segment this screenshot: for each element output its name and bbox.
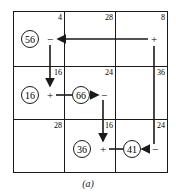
allocation-r2c2: 41 xyxy=(127,144,137,155)
cost-r1c1: 24 xyxy=(105,68,113,77)
sign-r2c1: + xyxy=(100,143,106,155)
sign-r0c0: − xyxy=(47,33,53,45)
cost-r1c2: 36 xyxy=(157,68,165,77)
cost-r2c0: 28 xyxy=(54,121,62,130)
allocation-r1c1: 66 xyxy=(76,90,86,101)
allocation-r2c1: 36 xyxy=(77,144,87,155)
cost-r0c2: 8 xyxy=(161,13,165,22)
sign-r1c0: + xyxy=(47,89,53,101)
cost-r1c0: 16 xyxy=(54,68,62,77)
allocation-r1c0: 16 xyxy=(25,90,35,101)
sign-r0c2-entering: + xyxy=(151,33,157,45)
allocation-r0c0: 56 xyxy=(25,34,35,45)
cost-r0c1: 28 xyxy=(105,13,113,22)
sign-r1c1: − xyxy=(101,89,107,101)
cost-r2c2: 24 xyxy=(157,121,165,130)
cost-r2c1: 16 xyxy=(105,121,113,130)
allocation-values: 56 16 66 36 41 xyxy=(25,34,137,155)
figure-caption: (a) xyxy=(0,178,176,189)
cost-labels: 4 28 8 16 24 36 28 16 24 xyxy=(54,13,165,130)
cost-r0c0: 4 xyxy=(58,13,62,22)
sign-r2c2: − xyxy=(152,143,158,155)
transportation-tableau: 4 28 8 16 24 36 28 16 24 56 16 66 36 41 … xyxy=(0,0,176,194)
